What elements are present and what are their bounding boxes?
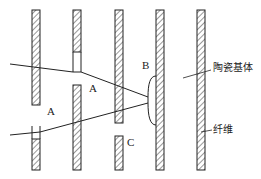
fiber-3-broken-segment (115, 136, 123, 170)
annotation-fiber: 纤维 (213, 125, 233, 135)
fiber-2-bottom (73, 85, 81, 170)
label-c-bridging: C (127, 137, 134, 148)
label-a-pullout-1: A (47, 106, 55, 117)
annotation-ceramic-matrix: 陶瓷基体 (213, 63, 253, 73)
fiber-matrix-diagram: A A B C 陶瓷基体 纤维 (0, 0, 261, 179)
fiber-stub-bottom-left (32, 139, 40, 170)
label-b-deflection: B (142, 60, 149, 71)
crack-deflection-b (148, 76, 156, 125)
label-a-pullout-2: A (89, 83, 97, 94)
diagram-graphic (0, 0, 261, 179)
fiber-2-top (73, 10, 81, 52)
fiber-3 (115, 10, 123, 123)
fiber-4 (156, 10, 164, 170)
fiber-1 (32, 10, 40, 105)
fiber-5 (197, 10, 205, 170)
